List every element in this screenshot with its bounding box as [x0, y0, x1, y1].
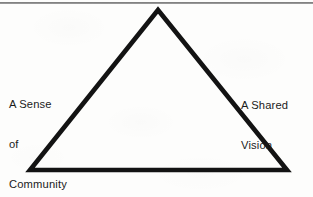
- label-a-positive-culture: A Positive Culture: [0, 176, 313, 197]
- label-right-line-2: Vision: [241, 139, 288, 152]
- label-a-shared-vision: A Shared Vision: [241, 72, 288, 179]
- label-right-line-1: A Shared: [241, 99, 288, 112]
- label-left-line-1: A Sense: [9, 98, 67, 111]
- scanned-diagram-page: A Sense of Community A Shared Vision A P…: [0, 0, 313, 197]
- label-left-line-2: of: [9, 138, 67, 151]
